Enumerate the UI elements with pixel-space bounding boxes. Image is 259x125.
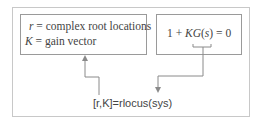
rlocus-command: [r,K]=rlocus(sys) [93, 97, 172, 109]
input-connector-line [158, 47, 203, 88]
output-connector-line [85, 60, 99, 95]
kg-bracket [193, 44, 211, 47]
arrow-up-icon [82, 55, 88, 61]
arrow-down-icon [155, 87, 161, 93]
